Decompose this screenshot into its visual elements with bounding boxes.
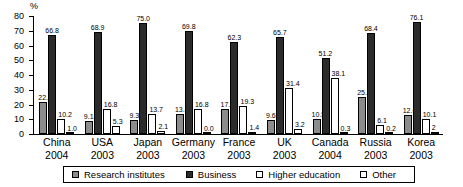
bars: 10.551.238.10.3 — [307, 16, 353, 134]
y-axis-unit-label: % — [30, 2, 38, 11]
category-name: China — [34, 136, 80, 149]
category-year: 2003 — [125, 149, 171, 162]
bars: 22.066.810.21.0 — [34, 16, 80, 134]
bar — [404, 115, 412, 134]
bar-group: 22.066.810.21.0 — [34, 16, 80, 134]
bar — [185, 31, 193, 134]
bar — [313, 119, 321, 134]
bar — [340, 132, 348, 134]
bar-value-label: 2.1 — [158, 123, 168, 130]
category-label: Canada2004 — [307, 136, 353, 162]
bar-value-label: 76.1 — [410, 14, 424, 21]
bar — [85, 121, 93, 134]
bar — [48, 35, 56, 134]
bar-value-label: 66.8 — [45, 27, 59, 34]
y-tick: 50 — [29, 60, 33, 61]
bar — [294, 129, 302, 134]
bar — [94, 32, 102, 134]
bar — [267, 120, 275, 134]
category-name: Germany — [171, 136, 217, 149]
bar-value-label: 0.2 — [386, 125, 396, 132]
y-tick-label: 60 — [4, 42, 24, 51]
legend-swatch-icon — [186, 171, 193, 178]
category-year: 2003 — [80, 149, 126, 162]
bar — [194, 109, 202, 134]
category-name: France — [216, 136, 262, 149]
y-tick: 80 — [29, 16, 33, 17]
legend-swatch-icon — [256, 171, 263, 178]
bar-value-label: 1.0 — [67, 125, 77, 132]
bars: 9.375.013.72.1 — [125, 16, 171, 134]
category-name: Russia — [353, 136, 399, 149]
y-tick-label: 80 — [4, 12, 24, 21]
bar-group: 13.469.816.80.0 — [171, 16, 217, 134]
bar-group: 25.368.46.10.2 — [353, 16, 399, 134]
y-tick: 40 — [29, 75, 33, 76]
bar — [376, 125, 384, 134]
bars: 13.469.816.80.0 — [171, 16, 217, 134]
bar — [176, 114, 184, 134]
category-label: France2003 — [216, 136, 262, 162]
bar-chart: % 01020304050607080 22.066.810.21.09.168… — [0, 0, 463, 187]
bars: 9.6565.731.43.2 — [262, 16, 308, 134]
category-label: UK2003 — [262, 136, 308, 162]
bar — [367, 33, 375, 134]
bar-value-label: 10.1 — [423, 111, 437, 118]
legend-label: Business — [198, 170, 237, 180]
bar — [148, 114, 156, 134]
bar-value-label: 10.2 — [58, 111, 72, 118]
category-label: USA2003 — [80, 136, 126, 162]
bar — [385, 132, 393, 134]
bar-value-label: 9.1 — [84, 113, 94, 120]
bar — [422, 119, 430, 134]
bar — [103, 109, 111, 134]
y-tick: 0 — [29, 134, 33, 135]
category-name: Japan — [125, 136, 171, 149]
y-tick-label: 30 — [4, 86, 24, 95]
bar-value-label: 3.2 — [295, 121, 305, 128]
y-tick-label: 50 — [4, 56, 24, 65]
bar — [130, 120, 138, 134]
category-name: Korea — [398, 136, 444, 149]
bar-value-label: 16.8 — [195, 101, 209, 108]
bar — [276, 37, 284, 134]
bar — [157, 131, 165, 134]
bar — [358, 97, 366, 134]
bar-value-label: 51.2 — [319, 50, 333, 57]
y-tick: 20 — [29, 105, 33, 106]
category-label: Japan2003 — [125, 136, 171, 162]
bar — [285, 88, 293, 134]
bar-value-label: 65.7 — [273, 29, 287, 36]
bar-value-label: 0.3 — [341, 125, 351, 132]
legend-label: Other — [372, 170, 396, 180]
bar — [331, 78, 339, 134]
bar — [239, 106, 247, 134]
bar — [230, 42, 238, 134]
bar — [248, 132, 256, 134]
bar-value-label: 68.9 — [91, 24, 105, 31]
category-year: 2003 — [262, 149, 308, 162]
category-year: 2004 — [307, 149, 353, 162]
bar — [322, 58, 330, 134]
legend-swatch-icon — [72, 171, 79, 178]
bars: 9.168.916.85.3 — [80, 16, 126, 134]
bar-value-label: 2 — [432, 124, 436, 131]
bar-value-label: 38.1 — [332, 70, 346, 77]
category-label: Korea2003 — [398, 136, 444, 162]
bar — [221, 109, 229, 134]
y-tick-label: 70 — [4, 27, 24, 36]
bar-group: 9.168.916.85.3 — [80, 16, 126, 134]
category-year: 2003 — [171, 149, 217, 162]
legend-item-research-institutes: Research institutes — [72, 170, 165, 180]
legend-item-higher-education: Higher education — [256, 170, 340, 180]
category-label: China2004 — [34, 136, 80, 162]
y-tick-label: 40 — [4, 71, 24, 80]
bar-group: 9.6565.731.43.2 — [262, 16, 308, 134]
legend-label: Research institutes — [84, 170, 165, 180]
y-tick: 60 — [29, 46, 33, 47]
y-tick-label: 20 — [4, 101, 24, 110]
bars: 12.676.110.12 — [398, 16, 444, 134]
bar-value-label: 68.4 — [364, 25, 378, 32]
bar-value-label: 13.7 — [149, 106, 163, 113]
legend-item-business: Business — [186, 170, 237, 180]
